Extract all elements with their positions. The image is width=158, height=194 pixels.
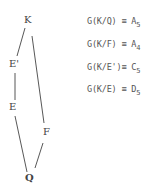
node-f: F (43, 127, 50, 137)
edge-k-f (32, 36, 44, 123)
equation-k-q: G(K/Q) ≡ A5 (87, 16, 140, 30)
edge-e-q (15, 116, 27, 172)
equation-k-e: G(K/E) ≡ D5 (87, 84, 140, 98)
equation-k-e-prime: G(K/E')≡ C5 (87, 62, 140, 76)
edge-k-eprime (17, 28, 25, 56)
node-e-prime: E' (9, 59, 19, 69)
node-k: K (24, 15, 31, 25)
node-q: Q (25, 173, 34, 183)
node-e: E (9, 102, 16, 112)
equation-k-f: G(K/F) ≡ A4 (87, 39, 140, 53)
edge-f-q (35, 143, 43, 168)
